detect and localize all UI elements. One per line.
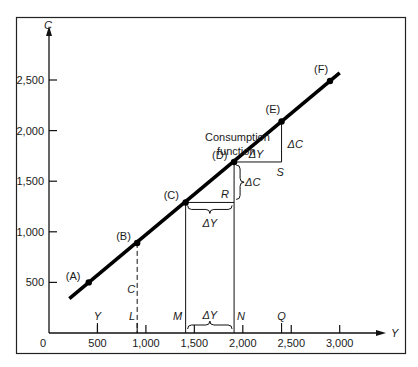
dashed-c-label: C bbox=[127, 283, 135, 295]
y-tick-label: 500 bbox=[26, 276, 44, 288]
y-axis-label: C bbox=[44, 19, 52, 31]
x-tick-label: 2,500 bbox=[277, 337, 305, 349]
point-label: (E) bbox=[266, 103, 281, 115]
point-label: (F) bbox=[314, 63, 328, 75]
axis-marker-label: Q bbox=[277, 310, 286, 322]
delta-c-label-mid: ΔC bbox=[244, 176, 260, 188]
axis-marker-label: L bbox=[129, 310, 135, 322]
x-tick-label: 3,000 bbox=[326, 337, 354, 349]
point-label: (C) bbox=[164, 189, 179, 201]
delta-y-label-mid: ΔY bbox=[201, 217, 217, 229]
x-tick-label: 500 bbox=[88, 337, 106, 349]
data-point bbox=[231, 159, 237, 165]
delta-y-label-axis: ΔY bbox=[201, 309, 217, 321]
consumption-line bbox=[69, 73, 339, 299]
y-ticks: 5001,0001,5002,0002,500 bbox=[16, 74, 57, 288]
axis-marker-label: M bbox=[173, 310, 183, 322]
data-point bbox=[278, 118, 284, 124]
data-point bbox=[86, 279, 92, 285]
point-label: (B) bbox=[116, 230, 131, 242]
x-tick-label: 2,000 bbox=[229, 337, 257, 349]
x-axis-arrowhead bbox=[376, 330, 386, 336]
y-tick-label: 1,500 bbox=[16, 175, 44, 187]
point-r-label: R bbox=[221, 188, 229, 200]
y-tick-label: 2,500 bbox=[16, 74, 44, 86]
y-tick-label: 1,000 bbox=[16, 226, 44, 238]
data-point bbox=[182, 199, 188, 205]
axis-marker-label: N bbox=[237, 310, 245, 322]
x-tick-label: 1,500 bbox=[181, 337, 209, 349]
x-axis-label: Y bbox=[391, 327, 399, 339]
curve-label-line1: Consumption bbox=[205, 131, 270, 143]
consumption-series bbox=[69, 73, 339, 299]
axis-marker-label: Y bbox=[94, 310, 102, 322]
data-point bbox=[327, 78, 333, 84]
x-ticks: 5001,0001,5002,0002,5003,000 bbox=[88, 325, 353, 349]
point-label: (A) bbox=[66, 270, 81, 282]
delta-c-label-right: ΔC bbox=[287, 138, 303, 150]
brace-delta-y-upper bbox=[188, 205, 232, 213]
origin-label: 0 bbox=[40, 337, 46, 349]
point-s-label: S bbox=[277, 166, 285, 178]
x-tick-label: 1,000 bbox=[132, 337, 160, 349]
y-tick-label: 2,000 bbox=[16, 125, 44, 137]
data-point bbox=[134, 240, 140, 246]
consumption-function-diagram: C Y 0 5001,0001,5002,0002,5003,000 5001,… bbox=[0, 0, 418, 367]
frame-border bbox=[17, 18, 406, 354]
delta-y-label-top: ΔY bbox=[248, 148, 264, 160]
brace-delta-c bbox=[236, 165, 244, 199]
